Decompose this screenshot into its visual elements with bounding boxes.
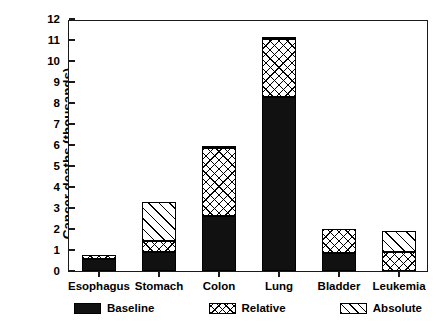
bar-segment-baseline [82,259,116,271]
x-tick-mark [158,271,159,277]
y-tick-mark [69,165,75,166]
y-tick-label: 3 [54,200,60,216]
y-tick-mark [69,123,75,124]
plot-inner: 0123456789101112 EsophagusStomachColonLu… [69,21,427,271]
x-tick-mark [218,271,219,277]
y-tick-mark [69,249,75,250]
y-tick-mark [69,39,75,40]
bar-segment-baseline [142,252,176,271]
y-tick-label: 0 [54,263,60,279]
bar-stomach [142,202,176,271]
x-tick-mark [338,271,339,277]
bar-segment-absolute [382,231,416,252]
bar-segment-baseline [262,97,296,271]
y-tick-mark [69,60,75,61]
bar-segment-relative [382,252,416,271]
y-tick-label: 11 [48,32,60,48]
legend-swatch-relative [209,303,236,314]
x-tick-mark [98,271,99,277]
y-tick-label: 5 [54,158,60,174]
legend-label: Absolute [373,302,422,314]
y-tick-mark [69,18,75,19]
y-tick-mark [69,102,75,103]
bar-segment-absolute [262,37,296,39]
legend-swatch-baseline [74,303,101,314]
y-tick-mark [69,81,75,82]
bar-segment-relative [202,148,236,216]
x-tick-label: Leukemia [372,280,425,292]
bar-bladder [322,229,356,271]
x-tick-mark [278,271,279,277]
y-tick-mark [69,207,75,208]
legend-label: Relative [242,302,286,314]
y-tick-label: 12 [47,11,60,27]
y-tick-label: 8 [54,95,60,111]
y-tick-label: 10 [47,53,60,69]
x-tick-label: Stomach [135,280,184,292]
x-tick-label: Lung [265,280,293,292]
y-tick-label: 1 [54,242,60,258]
bar-leukemia [382,231,416,271]
cancer-deaths-stacked-bar-chart: Cancer deaths (thousands) 01234567891011… [0,0,441,333]
legend-item-absolute: Absolute [340,302,422,314]
bar-segment-baseline [202,216,236,271]
y-tick-mark [69,144,75,145]
x-tick-label: Colon [203,280,236,292]
y-tick-mark [69,228,75,229]
bar-colon [202,146,236,271]
legend-swatch-absolute [340,303,367,314]
y-tick-label: 9 [54,74,60,90]
bar-segment-relative [82,255,116,259]
y-tick-label: 6 [54,137,60,153]
legend-item-baseline: Baseline [74,302,154,314]
x-tick-label: Esophagus [68,280,130,292]
bar-segment-relative [322,229,356,253]
y-tick-mark [69,270,75,271]
legend-item-relative: Relative [209,302,286,314]
plot-area: 0123456789101112 EsophagusStomachColonLu… [68,20,428,272]
bar-segment-baseline [322,253,356,271]
y-tick-label: 4 [54,179,60,195]
legend-label: Baseline [107,302,154,314]
bar-segment-relative [142,241,176,253]
bar-segment-absolute [142,202,176,241]
bar-lung [262,38,296,271]
y-tick-label: 2 [54,221,60,237]
bar-segment-relative [262,39,296,97]
x-tick-mark [398,271,399,277]
bar-segment-absolute [202,146,236,148]
y-tick-label: 7 [54,116,60,132]
bar-esophagus [82,255,116,271]
y-tick-mark [69,186,75,187]
chart-legend: BaselineRelativeAbsolute [68,302,428,314]
x-tick-label: Bladder [318,280,361,292]
